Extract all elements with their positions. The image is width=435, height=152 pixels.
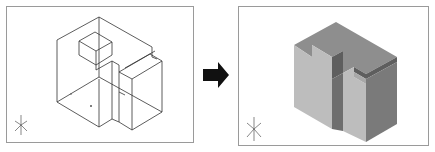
arrow-right-icon [203,62,229,88]
shaded-view-panel [238,6,429,146]
shaded-solid-model [239,7,430,147]
ucs-axes-icon [15,115,27,135]
ucs-axes-icon [247,117,261,141]
wireframe-model [7,7,195,144]
wireframe-view-panel [6,6,194,143]
